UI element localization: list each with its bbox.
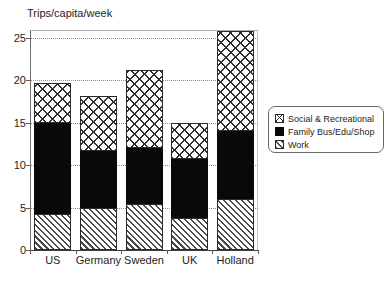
bar-segment-us-work [34,214,71,250]
x-tick-label-holland: Holland [205,254,265,267]
y-tick-mark-20 [26,80,30,81]
y-tick-mark-15 [26,123,30,124]
bar-segment-germany-work [80,208,117,250]
bar-us [34,0,71,250]
bar-sweden [126,0,163,250]
plot-baseline [30,250,258,251]
bar-segment-holland-family-bus-edu-shop [217,131,254,199]
bar-segment-holland-social-recreational [217,31,254,131]
y-tick-label-20: 20 [2,75,26,86]
bar-segment-holland-work [217,199,254,250]
bar-segment-us-family-bus-edu-shop [34,123,71,214]
y-tick-mark-10 [26,165,30,166]
legend-item-work[interactable]: Work [275,138,309,151]
bar-segment-germany-family-bus-edu-shop [80,151,117,208]
legend-label: Social & Recreational [288,114,374,124]
y-tick-label-15: 15 [2,118,26,129]
bar-segment-sweden-work [126,204,163,250]
bar-germany [80,0,117,250]
bar-uk [171,0,208,250]
bar-segment-uk-social-recreational [171,123,208,159]
legend-item-social-recreational[interactable]: Social & Recreational [275,112,374,125]
y-tick-label-10: 10 [2,160,26,171]
bar-segment-uk-work [171,218,208,250]
y-tick-label-5: 5 [2,203,26,214]
bar-segment-germany-social-recreational [80,96,117,151]
legend-label: Work [288,140,309,150]
bar-segment-sweden-family-bus-edu-shop [126,148,163,204]
legend-label: Family Bus/Edu/Shop [288,127,375,137]
legend-swatch-solid-black-icon [275,127,284,136]
y-tick-mark-25 [26,38,30,39]
bar-segment-sweden-social-recreational [126,70,163,148]
chart-legend: Social & RecreationalFamily Bus/Edu/Shop… [268,106,384,153]
bar-segment-uk-family-bus-edu-shop [171,159,208,218]
legend-swatch-crosshatch-icon [275,114,284,123]
bar-holland [217,0,254,250]
y-tick-label-25: 25 [2,33,26,44]
x-tick-mark-0 [30,250,31,254]
bar-segment-us-social-recreational [34,83,71,123]
legend-swatch-diagonal-hatch-icon [275,140,284,149]
legend-item-family-bus-edu-shop[interactable]: Family Bus/Edu/Shop [275,125,375,138]
y-tick-mark-5 [26,208,30,209]
